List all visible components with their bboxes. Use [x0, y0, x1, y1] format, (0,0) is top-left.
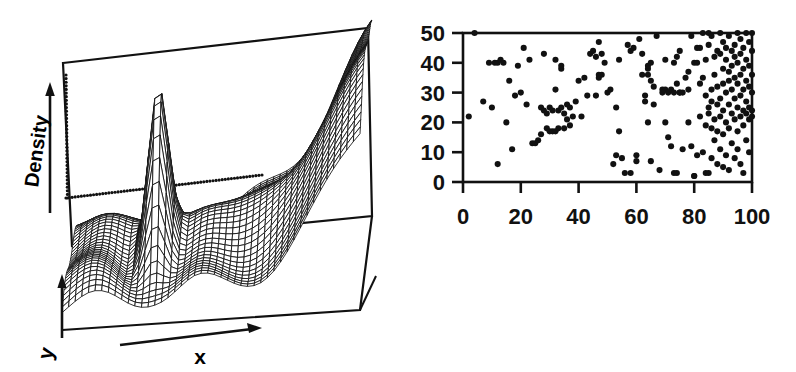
scatter-point: [555, 125, 561, 131]
scatter-point: [729, 63, 735, 69]
y-axis-label: y: [33, 344, 58, 361]
scatter-point: [737, 161, 743, 167]
scatter-point: [651, 84, 657, 90]
scatter-point: [654, 33, 660, 39]
scatter-point: [671, 90, 677, 96]
scatter-point: [735, 128, 741, 134]
scatter-point: [703, 122, 709, 128]
scatter-point: [726, 78, 732, 84]
scatter-point: [720, 164, 726, 170]
scatter-panel: 020406080100 01020304050: [400, 0, 796, 372]
scatter-point: [567, 104, 573, 110]
x-tick-label: 40: [566, 204, 590, 229]
scatter-point: [518, 90, 524, 96]
scatter-point: [642, 93, 648, 99]
scatter-point: [749, 113, 755, 119]
scatter-point: [662, 57, 668, 63]
scatter-point: [674, 81, 680, 87]
scatter-point: [645, 72, 651, 78]
scatter-point: [746, 63, 752, 69]
scatter-point: [711, 72, 717, 78]
scatter-point: [561, 110, 567, 116]
scatter-point: [723, 152, 729, 158]
scatter-point: [472, 30, 478, 36]
scatter-point: [619, 155, 625, 161]
scatter-point: [633, 152, 639, 158]
surface-plot-svg: Density y x: [0, 0, 400, 372]
scatter-point: [648, 60, 654, 66]
scatter-point: [584, 93, 590, 99]
scatter-point: [677, 90, 683, 96]
scatter-point: [749, 90, 755, 96]
scatter-point: [700, 75, 706, 81]
scatter-point: [509, 146, 515, 152]
x-tick-label: 100: [734, 204, 771, 229]
scatter-point: [711, 116, 717, 122]
scatter-point: [674, 54, 680, 60]
scatter-point: [746, 149, 752, 155]
scatter-point: [613, 152, 619, 158]
scatter-point: [737, 93, 743, 99]
scatter-point: [665, 134, 671, 140]
scatter-point: [732, 75, 738, 81]
scatter-point: [697, 81, 703, 87]
y-tick-label: 40: [421, 51, 445, 76]
scatter-point: [717, 113, 723, 119]
scatter-point: [714, 84, 720, 90]
scatter-point: [633, 158, 639, 164]
scatter-point: [616, 128, 622, 134]
scatter-point: [685, 69, 691, 75]
scatter-point: [720, 81, 726, 87]
scatter-point: [599, 51, 605, 57]
scatter-point: [706, 170, 712, 176]
scatter-point: [486, 60, 492, 66]
scatter-point: [735, 104, 741, 110]
scatter-point: [599, 72, 605, 78]
x-tick-label: 0: [457, 204, 469, 229]
scatter-point: [541, 51, 547, 57]
scatter-point: [613, 104, 619, 110]
x-axis-arrow: [120, 323, 262, 345]
scatter-point: [735, 81, 741, 87]
scatter-point: [691, 173, 697, 179]
scatter-point: [749, 107, 755, 113]
scatter-point: [567, 122, 573, 128]
scatter-point: [535, 137, 541, 143]
scatter-point: [706, 104, 712, 110]
scatter-point: [723, 45, 729, 51]
scatter-point: [700, 30, 706, 36]
scatter-point: [708, 98, 714, 104]
scatter-point: [628, 48, 634, 54]
scatter-point: [746, 39, 752, 45]
scatter-point: [489, 104, 495, 110]
scatter-point: [506, 78, 512, 84]
scatter-x-tick-labels: 020406080100: [457, 204, 770, 229]
scatter-point: [726, 101, 732, 107]
scatter-point: [561, 125, 567, 131]
scatter-point: [708, 87, 714, 93]
scatter-data-points: [466, 30, 755, 179]
scatter-point: [735, 146, 741, 152]
scatter-point: [729, 48, 735, 54]
scatter-point: [610, 161, 616, 167]
scatter-point: [708, 33, 714, 39]
scatter-point: [564, 116, 570, 122]
scatter-point: [544, 110, 550, 116]
scatter-point: [552, 57, 558, 63]
y-tick-label: 30: [421, 81, 445, 106]
scatter-point: [749, 30, 755, 36]
scatter-point: [732, 155, 738, 161]
scatter-point: [581, 75, 587, 81]
scatter-point: [711, 54, 717, 60]
scatter-point: [495, 161, 501, 167]
scatter-point: [685, 119, 691, 125]
scatter-point: [645, 119, 651, 125]
scatter-point: [677, 48, 683, 54]
scatter-point: [688, 143, 694, 149]
scatter-point: [717, 96, 723, 102]
scatter-point: [723, 57, 729, 63]
scatter-point: [749, 72, 755, 78]
figure-container: Density y x 020406080100 01020304050: [0, 0, 796, 372]
scatter-point: [726, 125, 732, 131]
x-tick-label: 80: [682, 204, 706, 229]
